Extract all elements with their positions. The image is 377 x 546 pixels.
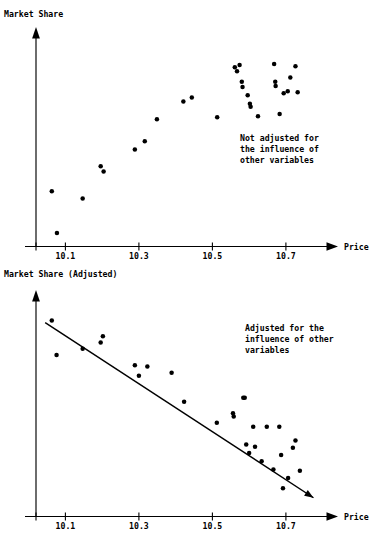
data-point [181, 99, 186, 104]
data-point [101, 334, 106, 339]
bottom-tick-label: 10.5 [203, 521, 223, 531]
top-annotation: Not adjusted for the influence of other … [240, 133, 319, 165]
scatterplot-figure: Market Share Price 10.110.310.510.7 Not … [0, 0, 377, 546]
data-point [98, 340, 103, 345]
top-tick-label: 10.5 [203, 251, 223, 261]
top-y-axis-label: Market Share [4, 9, 63, 19]
data-point [293, 64, 298, 69]
data-point [133, 147, 138, 152]
data-point [80, 196, 85, 201]
bottom-tick-label: 10.3 [129, 521, 149, 531]
bottom-tick-label: 10.7 [276, 521, 296, 531]
data-point [251, 425, 256, 430]
data-point [248, 105, 253, 110]
top-y-axis [32, 27, 40, 247]
bottom-x-axis [25, 512, 338, 520]
data-point [50, 189, 55, 194]
data-point [277, 425, 282, 430]
top-x-axis-arrowhead [327, 242, 339, 250]
data-point [273, 84, 278, 89]
data-point [281, 91, 286, 96]
top-annotation-line-1: Not adjusted for [240, 133, 319, 143]
data-point [291, 445, 296, 450]
bottom-annotation-line-3: variables [245, 345, 289, 355]
data-point [145, 364, 150, 369]
data-point [244, 442, 249, 447]
data-point [137, 374, 142, 379]
data-point [190, 95, 195, 100]
bottom-y-axis-arrowhead [32, 290, 40, 302]
data-point [155, 117, 160, 122]
data-point [281, 486, 286, 491]
data-point [286, 476, 291, 481]
top-annotation-line-2: the influence of [240, 144, 319, 154]
data-point [54, 353, 59, 358]
bottom-annotation-line-2: influence of other [245, 334, 334, 344]
data-point [215, 115, 220, 120]
top-y-axis-arrowhead [32, 27, 40, 39]
data-point [242, 395, 247, 400]
data-point [143, 139, 148, 144]
bottom-x-ticks: 10.110.310.510.7 [36, 513, 296, 532]
data-point [277, 112, 282, 117]
data-point [293, 438, 298, 443]
data-point [240, 80, 245, 85]
top-tick-label: 10.1 [56, 251, 76, 261]
data-point [235, 69, 240, 74]
data-point [265, 425, 270, 430]
data-point [101, 169, 106, 174]
data-point [233, 65, 238, 70]
data-point [273, 80, 278, 85]
data-point [298, 468, 303, 473]
data-point [240, 85, 245, 90]
data-point [288, 75, 293, 80]
data-point [295, 90, 300, 95]
top-tick-label: 10.7 [276, 251, 296, 261]
data-point [133, 363, 138, 368]
data-point [237, 63, 242, 68]
panel-unadjusted: Market Share Price 10.110.310.510.7 Not … [4, 9, 369, 261]
data-point [253, 444, 258, 449]
regression-line-arrowhead [304, 490, 313, 498]
data-point [256, 114, 261, 119]
data-point [285, 89, 290, 94]
bottom-y-axis-label: Market Share (Adjusted) [4, 269, 117, 279]
data-point [215, 420, 220, 425]
panel-adjusted: Market Share (Adjusted) Price 10.110.310… [4, 269, 369, 531]
bottom-tick-label: 10.1 [56, 521, 76, 531]
plot-canvas: Market Share Price 10.110.310.510.7 Not … [0, 0, 377, 546]
data-point [80, 346, 85, 351]
bottom-annotation: Adjusted for the influence of other vari… [245, 323, 334, 355]
bottom-x-axis-label: Price [344, 512, 369, 522]
data-point [259, 459, 264, 464]
top-x-ticks: 10.110.310.510.7 [36, 243, 296, 262]
data-point [98, 164, 103, 169]
data-point [50, 318, 55, 323]
data-point [245, 93, 250, 98]
data-point [169, 370, 174, 375]
data-point [271, 467, 276, 472]
bottom-annotation-line-1: Adjusted for the [245, 323, 324, 333]
top-x-axis [25, 242, 338, 250]
data-point [182, 400, 187, 405]
bottom-y-axis [32, 290, 40, 517]
bottom-x-axis-arrowhead [327, 512, 339, 520]
data-point [231, 414, 236, 419]
data-point [272, 62, 277, 67]
data-point [279, 453, 284, 458]
data-point [247, 451, 252, 456]
top-annotation-line-3: other variables [240, 155, 314, 165]
data-point [55, 231, 60, 236]
top-x-axis-label: Price [344, 242, 369, 252]
top-tick-label: 10.3 [129, 251, 149, 261]
